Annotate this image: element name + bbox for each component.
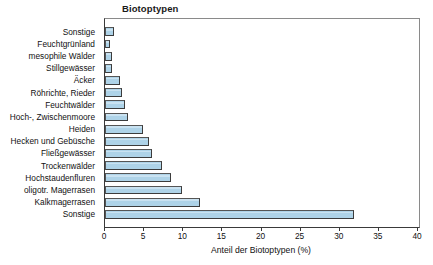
bar [105,40,110,49]
bar [105,76,120,85]
bar-highlight [106,29,113,31]
y-axis-label: Feuchtgrünland [0,38,100,50]
bar-highlight [106,90,121,92]
bar-row [105,196,418,208]
bar [105,100,125,109]
y-axis-label: Stillgewässer [0,62,100,74]
bar [105,198,200,207]
bar [105,88,122,97]
bar-highlight [106,66,111,68]
bar [105,161,162,170]
bar-highlight [106,212,353,214]
bar-highlight [106,41,109,43]
bar-highlight [106,114,127,116]
bar-highlight [106,53,111,55]
x-tick-label: 30 [334,231,343,241]
bar-highlight [106,163,161,165]
y-axis-category-labels: SonstigeFeuchtgrünlandmesophile WälderSt… [0,19,100,226]
x-tick-label: 0 [102,231,107,241]
bar [105,125,143,134]
bar [105,137,149,146]
x-axis-title: Anteil der Biotoptypen (%) [104,245,418,255]
y-axis-label: Äcker [0,74,100,86]
chart-figure: Biotoptypen SonstigeFeuchtgrünlandmesoph… [0,0,433,265]
x-tick-label: 5 [141,231,146,241]
bar [105,52,112,61]
bar-row [105,135,418,147]
bar [105,27,114,36]
y-axis-label: Hochstaudenfluren [0,172,100,184]
y-axis-label: Fließgewässer [0,147,100,159]
bar-row [105,87,418,99]
x-tick-label: 40 [412,231,421,241]
bar-row [105,123,418,135]
bar-highlight [106,187,181,189]
bar-row [105,74,418,86]
bar [105,173,171,182]
chart-title: Biotoptypen [104,3,418,14]
y-axis-label: Sonstige [0,26,100,38]
bar-highlight [106,126,142,128]
bar-highlight [106,139,148,141]
bar-highlight [106,151,151,153]
bar-row [105,26,418,38]
y-axis-label: mesophile Wälder [0,50,100,62]
x-tick-label: 15 [217,231,226,241]
bar-row [105,99,418,111]
x-tick-label: 10 [178,231,187,241]
x-tick-label: 35 [373,231,382,241]
bar-row [105,38,418,50]
y-axis-label: Heiden [0,123,100,135]
bar-highlight [106,102,124,104]
bar-highlight [106,175,170,177]
bar-row [105,172,418,184]
bar [105,210,354,219]
y-axis-label: oligotr. Magerrasen [0,184,100,196]
x-tick-label: 20 [256,231,265,241]
bar-highlight [106,78,119,80]
bar-row [105,111,418,123]
y-axis-label: Hoch-, Zwischenmoore [0,111,100,123]
y-axis-label: Trockenwälder [0,160,100,172]
y-axis-label: Kalkmagerrasen [0,196,100,208]
y-axis-label: Röhrichte, Rieder [0,87,100,99]
bar-highlight [106,199,199,201]
bar [105,64,112,73]
bar [105,186,182,195]
bar [105,149,152,158]
x-axis-tick-labels: 0510152025303540 [104,231,420,243]
y-axis-label: Feuchtwälder [0,99,100,111]
y-axis-label: Sonstige [0,208,100,220]
bar-row [105,147,418,159]
bar-row [105,160,418,172]
x-tick-label: 25 [295,231,304,241]
bar-series [105,19,418,226]
bar-row [105,184,418,196]
bar-row [105,62,418,74]
bar [105,113,128,122]
y-axis-label: Hecken und Gebüsche [0,135,100,147]
bar-row [105,50,418,62]
bar-row [105,208,418,220]
